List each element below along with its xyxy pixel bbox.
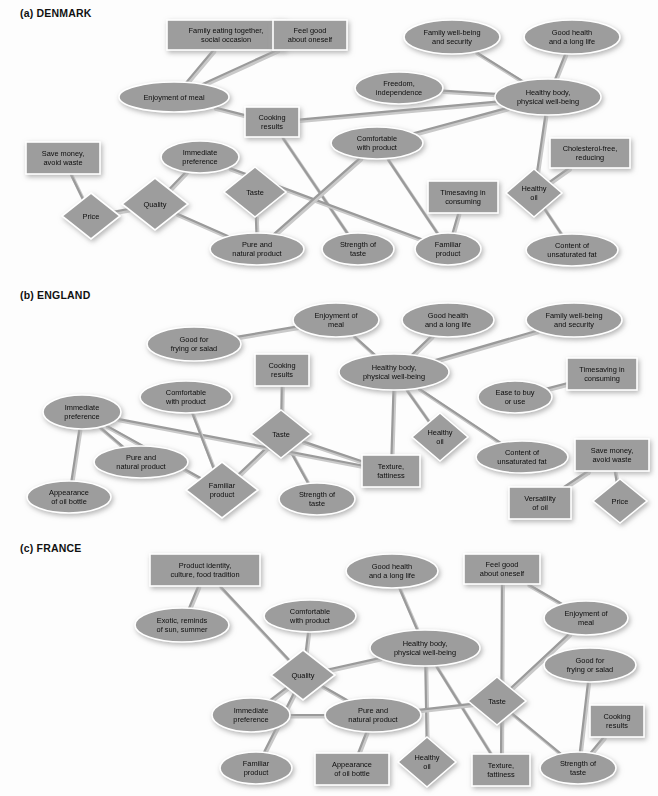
- node-label: Familiarproduct: [209, 481, 236, 499]
- node-texture[interactable]: Texture,fattiness: [472, 754, 530, 786]
- node-healthybody[interactable]: Healthy body,physical well-being: [339, 354, 449, 390]
- node-label: Immediatepreference: [233, 706, 268, 724]
- node-label: Cookingresults: [603, 712, 630, 730]
- node-label: Comfortablewith product: [289, 607, 330, 625]
- node-famwell[interactable]: Family well-beingand security: [404, 20, 500, 54]
- node-timesaving[interactable]: Timesaving inconsuming: [567, 358, 637, 390]
- node-famwell[interactable]: Family well-beingand security: [526, 303, 622, 337]
- node-price[interactable]: Price: [62, 193, 120, 239]
- node-cholesterol[interactable]: Cholesterol-free,reducing: [550, 138, 630, 168]
- node-enjoy[interactable]: Enjoyment ofmeal: [293, 303, 379, 337]
- panel-title-denmark: (a) DENMARK: [20, 7, 92, 19]
- edge: [256, 216, 258, 234]
- node-prodident[interactable]: Product identity,culture, food tradition: [150, 554, 260, 586]
- node-cooking[interactable]: Cookingresults: [255, 354, 309, 386]
- edge: [555, 54, 566, 81]
- edge: [564, 471, 589, 489]
- node-strength[interactable]: Strength oftaste: [540, 752, 616, 784]
- node-healthybody[interactable]: Healthy body,physical well-being: [495, 79, 601, 115]
- node-immediate[interactable]: Immediatepreference: [212, 698, 290, 732]
- edge: [547, 383, 569, 390]
- node-goodfry[interactable]: Good forfrying or salad: [147, 327, 241, 361]
- node-versatility[interactable]: Versatilityof oil: [509, 487, 571, 519]
- node-quality[interactable]: Quality: [122, 178, 188, 230]
- node-cooking[interactable]: Cookingresults: [245, 107, 299, 137]
- node-label: Healthy body,physical well-being: [363, 363, 425, 381]
- node-enjoy[interactable]: Enjoyment ofmeal: [544, 601, 628, 635]
- diagram-england: Enjoyment ofmealGood healthand a long li…: [0, 282, 658, 535]
- node-cooking[interactable]: Cookingresults: [590, 705, 644, 737]
- node-label: Texture,fattiness: [487, 761, 515, 779]
- node-goodhealth[interactable]: Good healthand a long life: [524, 20, 620, 54]
- node-price[interactable]: Price: [593, 479, 647, 523]
- node-appearance[interactable]: Appearanceof oil bottle: [315, 753, 389, 785]
- node-goodfry[interactable]: Good forfrying or salad: [544, 648, 636, 682]
- node-label: Immediatepreference: [182, 148, 217, 166]
- edge: [391, 390, 394, 457]
- node-label: Appearanceof oil bottle: [49, 488, 89, 506]
- node-healthyoil[interactable]: Healthyoil: [412, 413, 468, 461]
- node-exotic[interactable]: Exotic, remindsof sun, summer: [135, 608, 229, 642]
- node-healthyoil[interactable]: Healthyoil: [398, 737, 456, 787]
- edge: [169, 172, 187, 191]
- node-pure[interactable]: Pure andnatural product: [210, 233, 304, 265]
- node-label: Comfortablewith product: [165, 388, 206, 406]
- node-label: Immediatepreference: [64, 403, 99, 421]
- node-enjoy[interactable]: Enjoyment of meal: [119, 82, 229, 112]
- panel-title-france: (c) FRANCE: [20, 542, 82, 554]
- diagram-france: Product identity,culture, food tradition…: [0, 535, 658, 796]
- node-healthyoil[interactable]: Healthyoil: [506, 169, 562, 217]
- node-label: Healthy body,physical well-being: [394, 639, 456, 657]
- edge: [580, 682, 589, 754]
- node-appearance[interactable]: Appearanceof oil bottle: [27, 481, 111, 513]
- edge: [413, 108, 507, 135]
- node-savemoney[interactable]: Save money,avoid waste: [26, 142, 100, 174]
- node-taste[interactable]: Taste: [224, 167, 286, 217]
- edge: [274, 158, 362, 236]
- node-strength[interactable]: Strength oftaste: [322, 233, 394, 265]
- node-pure[interactable]: Pure andnatural product: [94, 446, 188, 478]
- node-label: Good healthand a long life: [425, 311, 471, 329]
- edge: [192, 413, 215, 470]
- node-label: Taste: [246, 188, 264, 197]
- node-feelgood[interactable]: Feel goodabout oneself: [464, 554, 540, 584]
- node-goodhealth[interactable]: Good healthand a long life: [402, 303, 494, 337]
- node-timesaving[interactable]: Timesaving inconsuming: [428, 181, 498, 213]
- node-unsat[interactable]: Content ofunsaturated fat: [526, 234, 618, 266]
- edge: [528, 584, 564, 606]
- edge: [353, 336, 376, 357]
- node-healthybody[interactable]: Healthy body,physical well-being: [370, 630, 480, 666]
- node-immediate[interactable]: Immediatepreference: [43, 395, 121, 429]
- edge: [290, 715, 326, 717]
- node-savemoney[interactable]: Save money,avoid waste: [575, 439, 649, 471]
- node-ease[interactable]: Ease to buyor use: [478, 381, 552, 413]
- node-familiar[interactable]: Familiarproduct: [220, 752, 292, 784]
- edge: [412, 336, 433, 357]
- node-texture[interactable]: Texture,fattiness: [362, 455, 420, 487]
- node-immediate[interactable]: Immediatepreference: [161, 141, 239, 173]
- node-label: Comfortablewith product: [356, 134, 397, 152]
- node-label: Cookingresults: [268, 361, 295, 379]
- edge: [270, 687, 288, 702]
- edge: [71, 429, 80, 483]
- node-goodhealth[interactable]: Good healthand a long life: [346, 554, 438, 588]
- node-pure[interactable]: Pure andnatural product: [325, 698, 421, 732]
- node-feelgood[interactable]: Feel goodabout oneself: [273, 20, 347, 50]
- node-unsat[interactable]: Content ofunsaturated fat: [476, 441, 568, 473]
- node-fam_eat[interactable]: Family eating together,social occasion: [167, 20, 285, 50]
- node-label: Quality: [143, 200, 166, 209]
- node-label: Healthy body,physical well-being: [517, 88, 579, 106]
- node-label: Price: [612, 497, 629, 506]
- edge: [238, 447, 268, 476]
- node-taste[interactable]: Taste: [251, 410, 311, 458]
- node-comfort[interactable]: Comfortablewith product: [331, 127, 423, 159]
- node-freedom[interactable]: Freedom,independence: [355, 72, 443, 104]
- node-label: Feel goodabout oneself: [480, 560, 525, 578]
- node-label: Enjoyment of meal: [143, 93, 205, 102]
- node-comfort[interactable]: Comfortablewith product: [264, 600, 356, 632]
- edge: [544, 208, 563, 236]
- node-strength[interactable]: Strength oftaste: [279, 483, 355, 515]
- node-comfort[interactable]: Comfortablewith product: [140, 381, 232, 413]
- edge: [358, 732, 368, 755]
- node-familiar[interactable]: Familiarproduct: [415, 233, 481, 265]
